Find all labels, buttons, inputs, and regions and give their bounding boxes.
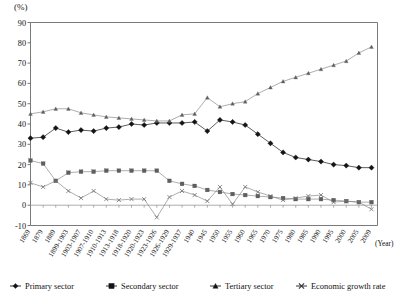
x-tick-label: 1940: [182, 228, 197, 245]
data-point-marker: [218, 185, 222, 189]
x-tick-label: 1945: [195, 228, 210, 245]
data-point-marker: [79, 196, 83, 200]
series-line: [31, 47, 372, 121]
data-point-marker: [129, 121, 134, 126]
x-tick-label: 2009: [359, 228, 374, 245]
data-point-marker: [306, 157, 311, 162]
data-point-marker: [318, 159, 323, 164]
data-point-marker: [269, 86, 273, 90]
x-tick-label: 1955: [220, 228, 235, 245]
legend-label: Primary sector: [25, 282, 74, 291]
x-tick-label: 1960: [233, 228, 248, 245]
data-point-marker: [193, 184, 197, 188]
data-point-marker: [370, 45, 374, 49]
data-point-marker: [104, 169, 108, 173]
data-point-marker: [168, 179, 172, 183]
data-point-marker: [356, 165, 361, 170]
chart-figure: (%) 9080706050403020100-10 1869187918891…: [0, 0, 394, 299]
legend-item-economic-growth-rate[interactable]: Economic growth rate: [296, 282, 386, 291]
data-point-marker: [41, 162, 45, 166]
data-point-marker: [344, 59, 348, 63]
data-point-marker: [78, 127, 83, 132]
y-tick-label: 40: [18, 120, 26, 129]
chart-legend: Primary sectorSecondary sectorTertiary s…: [10, 282, 386, 291]
data-point-marker: [369, 165, 374, 170]
x-tick-label: 1965: [245, 228, 260, 245]
data-point-marker: [104, 125, 109, 130]
data-point-marker: [255, 132, 260, 137]
data-point-marker: [142, 122, 147, 127]
data-point-marker: [53, 125, 58, 130]
data-point-marker: [205, 96, 209, 100]
x-axis-tick-labels: 1869187918891899-19031903-19071907-19101…: [18, 228, 374, 259]
data-point-marker: [66, 130, 71, 135]
axis-lines: [31, 23, 378, 226]
data-point-marker: [230, 119, 235, 124]
data-point-marker: [92, 170, 96, 174]
data-point-marker: [116, 124, 121, 129]
data-point-marker: [256, 194, 260, 198]
diamond-marker-icon: [13, 283, 18, 288]
data-point-marker: [179, 120, 184, 125]
data-point-marker: [29, 159, 33, 163]
data-point-marker: [91, 129, 96, 134]
y-tick-label: 70: [18, 59, 26, 68]
square-marker-icon: [109, 283, 114, 288]
data-point-marker: [231, 192, 235, 196]
x-tick-label: 1879: [31, 228, 46, 245]
data-point-marker: [319, 197, 323, 201]
data-point-marker: [66, 171, 70, 175]
legend-label: Tertiary sector: [225, 282, 274, 291]
y-tick-label: 0: [22, 201, 26, 210]
data-point-marker: [280, 150, 285, 155]
data-point-marker: [193, 193, 197, 197]
legend-item-tertiary-sector[interactable]: Tertiary sector: [210, 282, 274, 291]
data-point-marker: [192, 119, 197, 124]
x-axis-caption: (Year): [375, 239, 394, 248]
data-point-marker: [155, 169, 159, 173]
data-point-marker: [370, 207, 374, 211]
data-point-marker: [180, 189, 184, 193]
data-point-marker: [256, 190, 260, 194]
data-point-marker: [205, 188, 209, 192]
data-point-marker: [155, 215, 159, 219]
legend-item-secondary-sector[interactable]: Secondary sector: [106, 282, 179, 291]
y-tick-label: 10: [18, 181, 26, 190]
data-point-marker: [130, 169, 134, 173]
legend-label: Economic growth rate: [311, 282, 386, 291]
plot-series-group: [28, 45, 374, 219]
x-tick-label: 1970: [258, 228, 273, 245]
x-axis-caption-group: (Year): [375, 239, 394, 248]
data-point-marker: [117, 169, 121, 173]
x-tick-label: 1980: [283, 228, 298, 245]
x-tick-label: 2005: [346, 228, 361, 245]
data-point-marker: [268, 141, 273, 146]
y-axis-ticks: 9080706050403020100-10: [15, 19, 30, 231]
y-tick-label: 90: [18, 19, 26, 28]
series-tertiary-sector: [29, 45, 374, 123]
data-point-marker: [41, 185, 45, 189]
data-point-marker: [92, 189, 96, 193]
x-tick-label: 1985: [296, 228, 311, 245]
data-point-marker: [180, 182, 184, 186]
y-tick-label: 50: [18, 100, 26, 109]
data-point-marker: [79, 170, 83, 174]
y-tick-label: 30: [18, 140, 26, 149]
data-point-marker: [357, 51, 361, 55]
x-tick-label: 1995: [321, 228, 336, 245]
x-tick-label: 1975: [270, 228, 285, 245]
data-point-marker: [243, 100, 247, 104]
x-tick-label: 1990: [308, 228, 323, 245]
data-point-marker: [205, 199, 209, 203]
legend-item-primary-sector[interactable]: Primary sector: [10, 282, 74, 291]
y-tick-label: 80: [18, 39, 26, 48]
data-point-marker: [66, 189, 70, 193]
data-point-marker: [243, 193, 247, 197]
line-chart-canvas: 9080706050403020100-10 1869187918891899-…: [0, 0, 394, 299]
data-point-marker: [167, 195, 171, 199]
data-point-marker: [344, 163, 349, 168]
data-point-marker: [243, 185, 247, 189]
data-point-marker: [256, 92, 260, 96]
data-point-marker: [293, 155, 298, 160]
x-tick-label: 1950: [207, 228, 222, 245]
